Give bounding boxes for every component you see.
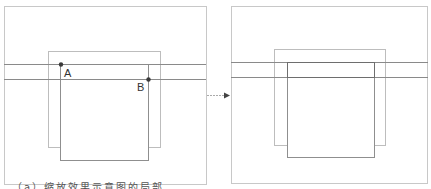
diagram-canvas: A B — [0, 0, 431, 189]
figure-caption: （a）缩放效果示意图的局部 — [12, 182, 164, 189]
transform-arrow-icon — [207, 93, 230, 99]
left-panel: A B — [4, 7, 207, 185]
point-a-label: A — [64, 67, 72, 79]
point-b — [146, 77, 150, 81]
right-panel — [231, 7, 428, 184]
point-b-label: B — [137, 81, 144, 93]
point-a — [59, 62, 63, 66]
right-dark-square — [288, 63, 375, 158]
left-dark-square — [61, 65, 149, 161]
